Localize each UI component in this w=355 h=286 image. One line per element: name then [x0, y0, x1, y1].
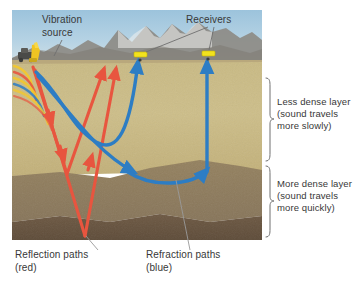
seismic-survey-figure: Vibration source Receivers Less dense la…	[0, 0, 355, 286]
reflection-paths-caption: Reflection paths (red)	[15, 249, 135, 274]
bracket-more-dense	[266, 166, 274, 237]
bracket-less-dense	[266, 78, 274, 161]
refraction-paths-caption: Refraction paths (blue)	[146, 249, 266, 274]
diagram-canvas	[0, 0, 355, 286]
layer-brackets	[266, 78, 274, 237]
scene-panel	[12, 10, 262, 240]
vibration-source-label: Vibration source	[42, 14, 82, 39]
less-dense-layer-label: Less dense layer (sound travels more slo…	[277, 96, 353, 131]
receivers-label: Receivers	[186, 14, 231, 27]
more-dense-layer-label: More dense layer (sound travels more qui…	[277, 178, 353, 213]
